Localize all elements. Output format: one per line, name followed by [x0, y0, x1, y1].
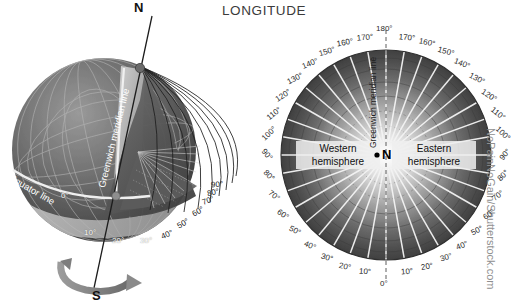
north-pole-marker [135, 63, 144, 72]
eastern-hemisphere-line1: Eastern [417, 143, 451, 154]
polar-center-north-label: N [382, 147, 391, 162]
globe-degree-90: 90° [211, 179, 224, 189]
globe-degree-30: 30° [140, 236, 152, 245]
polar-degree-180: 180° [376, 24, 393, 33]
western-hemisphere-label: Western hemisphere [298, 143, 378, 168]
globe-north-label: N [134, 0, 143, 15]
polar-east-degree-170: 170° [395, 32, 418, 43]
eastern-hemisphere-label: Eastern hemisphere [394, 143, 474, 168]
prime-meridian-origin-marker [112, 192, 120, 200]
polar-degree-0: 0° [380, 279, 388, 288]
globe-degree-20: 20° [112, 236, 124, 245]
polar-greenwich-meridian-label: Greenwich meridian line [368, 57, 378, 148]
globe-south-label: S [92, 288, 101, 303]
rotation-arrow-icon [60, 258, 142, 291]
illustration-canvas: LONGITUDE NoPainNoGain/Shutterstock.com … [0, 0, 524, 307]
western-hemisphere-line2: hemisphere [312, 156, 364, 167]
globe-sphere [0, 16, 238, 291]
polar-west-degree-170: 170° [354, 32, 377, 43]
western-hemisphere-line1: Western [319, 143, 356, 154]
eastern-hemisphere-line2: hemisphere [408, 156, 460, 167]
globe-degree-10: 10° [84, 228, 96, 237]
page-title: LONGITUDE [222, 3, 306, 18]
globe-degree-0: 0° [61, 191, 69, 200]
